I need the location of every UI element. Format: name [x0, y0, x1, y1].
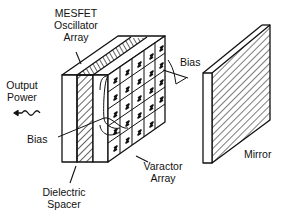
mirror-label: Mirror: [244, 148, 271, 160]
label-line: MESFET: [46, 7, 106, 19]
output-power-label: Output Power: [2, 79, 42, 103]
dielectric-spacer-label: Dielectric Spacer: [36, 186, 92, 210]
label-line: Spacer: [36, 198, 92, 210]
label-line: Array: [46, 31, 106, 43]
label-line: Array: [138, 172, 188, 184]
label-line: Varactor: [138, 160, 188, 172]
label-line: Power: [2, 91, 42, 103]
label-line: Dielectric: [36, 186, 92, 198]
quasi-optical-oscillator-diagram: MESFET Oscillator Array Output Power Bia…: [0, 0, 285, 222]
bias-label-left: Bias: [27, 133, 47, 145]
output-power-arrow: [14, 111, 40, 116]
label-line: Output: [2, 79, 42, 91]
oscillator-array-label: MESFET Oscillator Array: [46, 7, 106, 43]
bias-label-top: Bias: [180, 56, 200, 68]
mirror: [203, 25, 270, 163]
varactor-array-label: Varactor Array: [138, 160, 188, 184]
label-line: Oscillator: [46, 19, 106, 31]
